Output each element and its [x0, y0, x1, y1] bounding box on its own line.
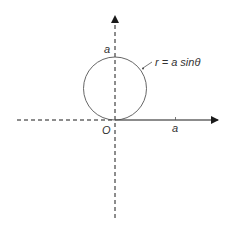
curve-label-leader [143, 62, 152, 68]
y-tick-label-a: a [104, 43, 110, 55]
leader-dot [142, 68, 144, 70]
curve-equation-label: r = a sinθ [155, 56, 200, 68]
origin-label: O [102, 124, 111, 136]
x-tick-label-a: a [172, 122, 178, 134]
polar-diagram: r = a sinθ a a O [0, 0, 229, 233]
